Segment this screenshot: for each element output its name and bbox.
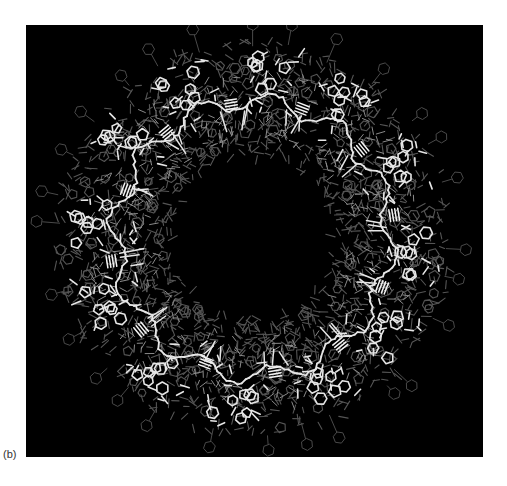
background-bond — [315, 349, 317, 359]
foreground-ring — [236, 413, 247, 424]
mid-bond — [151, 339, 156, 341]
background-bond — [128, 288, 133, 292]
background-bond — [167, 208, 171, 216]
background-bond — [319, 320, 325, 327]
background-bond — [312, 302, 316, 308]
mid-bond — [125, 207, 129, 215]
background-bond — [345, 219, 352, 226]
background-bond — [80, 276, 82, 281]
pendant-phenyl-ring — [90, 373, 102, 385]
pendant-bond — [268, 436, 269, 444]
ladder-bond — [269, 373, 281, 375]
background-bond — [147, 165, 149, 171]
mid-bond — [194, 94, 202, 98]
mid-bond — [198, 380, 200, 385]
background-ring — [354, 374, 364, 384]
foreground-bond — [168, 67, 175, 69]
background-bond — [304, 159, 306, 163]
background-bond — [90, 157, 92, 162]
background-bond — [237, 317, 244, 325]
background-bond — [332, 352, 335, 358]
background-bond — [58, 199, 64, 204]
mid-bond — [101, 273, 108, 274]
mid-bond — [167, 168, 175, 169]
background-bond — [110, 347, 116, 353]
pendant-phenyl-ring — [443, 320, 454, 332]
background-bond — [249, 141, 258, 142]
pendant-bond — [150, 409, 157, 420]
pendant-phenyl-ring — [389, 388, 400, 400]
mid-bond — [98, 296, 106, 300]
mid-bond — [148, 327, 154, 328]
background-bond — [373, 82, 379, 83]
ladder-bond — [115, 255, 117, 267]
background-bond — [262, 44, 267, 47]
foreground-bond — [296, 366, 302, 367]
background-ring — [84, 187, 94, 197]
molecular-ring-rendering — [26, 25, 483, 457]
background-bond — [207, 372, 208, 377]
inward-bond — [121, 255, 140, 258]
background-bond — [76, 256, 83, 259]
mid-bond — [280, 130, 286, 131]
mid-bond — [296, 97, 297, 105]
background-bond — [162, 303, 169, 304]
background-bond — [419, 321, 427, 326]
background-bond — [356, 166, 362, 167]
pendant-phenyl-ring — [331, 34, 343, 45]
background-bond — [266, 141, 267, 150]
foreground-bond — [364, 105, 371, 106]
background-bond — [422, 174, 428, 181]
background-bond — [273, 324, 279, 330]
background-ring — [229, 75, 237, 83]
background-bond — [446, 267, 447, 276]
background-bond — [164, 270, 165, 276]
ladder-bond — [136, 326, 144, 335]
background-bond — [68, 185, 69, 190]
background-ring — [342, 191, 351, 199]
background-bond — [214, 318, 219, 321]
background-bond — [225, 44, 232, 50]
pendant-bond — [43, 222, 60, 223]
mid-bond — [172, 167, 180, 168]
foreground-ring — [334, 94, 345, 106]
background-bond — [135, 360, 138, 365]
background-bond — [159, 228, 162, 237]
background-bond — [249, 95, 254, 96]
mid-bond — [93, 268, 95, 276]
background-bond — [371, 240, 377, 241]
background-bond — [351, 75, 354, 82]
pendant-phenyl-ring — [187, 25, 199, 35]
mid-bond — [129, 253, 135, 254]
foreground-bond — [310, 373, 311, 379]
background-bond — [312, 360, 317, 362]
background-bond — [332, 269, 335, 277]
foreground-bond — [357, 350, 362, 351]
backbone-bond — [370, 170, 377, 171]
background-bond — [174, 50, 177, 57]
background-bond — [248, 324, 250, 334]
mid-bond — [347, 373, 349, 379]
mid-bond — [328, 295, 336, 297]
background-bond — [146, 270, 155, 273]
inward-bond — [264, 352, 265, 366]
background-bond — [346, 184, 351, 188]
background-bond — [147, 347, 153, 348]
background-bond — [330, 60, 336, 61]
background-bond — [325, 355, 327, 362]
background-bond — [365, 254, 369, 260]
background-bond — [411, 319, 412, 329]
background-ring — [337, 139, 345, 147]
background-bond — [105, 108, 112, 109]
mid-bond — [91, 213, 94, 218]
foreground-bond — [417, 327, 421, 331]
pendant-bond — [151, 54, 157, 65]
background-ring — [286, 385, 294, 393]
background-bond — [391, 347, 393, 352]
background-bond — [155, 288, 163, 289]
background-bond — [168, 236, 177, 241]
foreground-bond — [438, 266, 439, 272]
foreground-bond — [158, 157, 164, 158]
mid-bond — [383, 140, 390, 142]
background-bond — [303, 323, 311, 325]
